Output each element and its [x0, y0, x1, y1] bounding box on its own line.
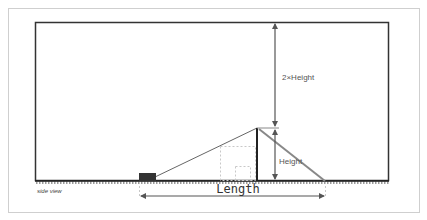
diagram-canvas: 2×Height Height Length side view: [0, 0, 427, 220]
block: [139, 173, 156, 181]
height-label: Height: [279, 157, 303, 166]
right-diagonal: [259, 129, 325, 181]
ramp-line: [155, 128, 257, 177]
length-label: Length: [216, 182, 259, 196]
two-height-label: 2×Height: [282, 73, 315, 82]
side-view-label: side view: [37, 188, 62, 194]
dotted-guide-small: [236, 167, 251, 181]
inner-rectangle: [36, 23, 389, 181]
dotted-guide-large: [221, 147, 256, 181]
